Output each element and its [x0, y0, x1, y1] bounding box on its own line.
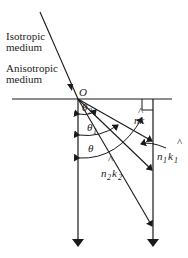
svg-text:1: 1 [174, 156, 178, 165]
nk-label: ^ nk [134, 105, 146, 126]
right-angle-icon [142, 99, 153, 110]
n2k2-label: ^ n 2 k 2 [101, 153, 122, 182]
incident-arrow-icon [67, 84, 73, 91]
n1k1-label: ^ n 1 k 1 [157, 136, 183, 165]
isotropic-label-line2: medium [6, 41, 42, 53]
svg-text:2: 2 [88, 107, 92, 116]
svg-text:2: 2 [107, 173, 111, 182]
svg-text:nk: nk [134, 114, 146, 126]
svg-text:2: 2 [118, 173, 122, 182]
theta-label: θ [88, 142, 94, 154]
theta1-label: θ 1 [87, 121, 97, 136]
anisotropic-label-line2: medium [6, 73, 42, 85]
refraction-diagram: Isotropic medium Anisotropic medium O θ … [0, 0, 188, 258]
svg-text:1: 1 [93, 127, 97, 136]
svg-text:1: 1 [163, 156, 167, 165]
svg-text:^: ^ [177, 136, 183, 148]
arc-theta1 [79, 125, 118, 136]
svg-text:^: ^ [108, 153, 114, 165]
origin-label: O [79, 86, 87, 98]
